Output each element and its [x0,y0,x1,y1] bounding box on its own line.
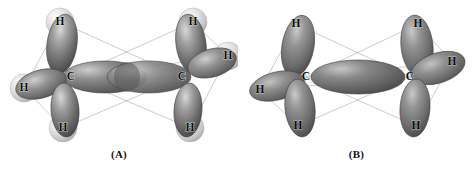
hydrogen-label-b-6: H [412,119,421,131]
central-sigma-overlap-a [63,61,191,93]
carbon-label-a-right: C [178,70,186,82]
central-bond-lobe-b [311,60,405,94]
panel-a-caption: (A) [0,148,238,160]
hydrogen-label-a-2: H [20,81,29,93]
hydrogen-label-a-3: H [59,121,68,133]
hydrogen-label-b-1: H [292,17,301,29]
hydrogen-label-a-5: H [224,49,233,61]
hydrogen-label-a-4: H [189,15,198,27]
hydrogen-label-b-4: H [414,17,423,29]
hydrogen-label-b-2: H [256,83,265,95]
panel-b-caption: (B) [238,148,475,160]
orbital-hybridization-figure: C C H H H H H H [0,0,475,173]
carbon-label-a-left: C [67,70,75,82]
hydrogen-label-a-6: H [186,121,195,133]
hydrogen-label-b-3: H [294,119,303,131]
carbon-label-b-right: C [406,70,414,82]
hydrogen-label-b-5: H [448,55,457,67]
carbon-label-b-left: C [302,70,310,82]
panel-b-diagram: C C H H H H H H [238,0,475,150]
hydrogen-label-a-1: H [56,15,65,27]
panel-a-diagram: C C H H H H H H [0,0,238,150]
